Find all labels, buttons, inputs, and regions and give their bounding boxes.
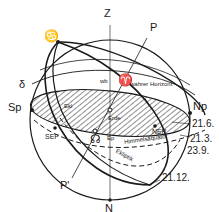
earth-point bbox=[108, 108, 112, 112]
south-point bbox=[30, 108, 34, 112]
label-date-2112: 21.12. bbox=[162, 173, 190, 183]
label-nadir: N bbox=[105, 203, 113, 212]
label-sep: SEP bbox=[45, 133, 59, 140]
label-zenith: Z bbox=[104, 8, 111, 19]
north-point bbox=[188, 111, 192, 115]
label-south-point: Sp bbox=[8, 102, 21, 113]
label-pole: P bbox=[150, 22, 157, 33]
label-north-point: Np bbox=[193, 101, 207, 112]
sep-point bbox=[53, 126, 57, 130]
label-date-239: 23.9. bbox=[187, 146, 209, 156]
label-true-horizon: wahrer Horizont bbox=[130, 81, 172, 87]
label-crossing: Ekl bbox=[64, 103, 72, 109]
cancer-icon: ♋ bbox=[44, 30, 59, 42]
label-south-pole: P' bbox=[60, 180, 69, 191]
label-date-216: 21.6. bbox=[192, 119, 214, 129]
label-wb: wb bbox=[100, 78, 108, 84]
label-date-213: 21.3. bbox=[190, 134, 212, 144]
label-earth: Erde bbox=[108, 115, 121, 121]
node-icon: ☊ bbox=[90, 133, 101, 145]
label-ep: Ep bbox=[107, 135, 114, 141]
label-delta: δ bbox=[19, 79, 25, 90]
